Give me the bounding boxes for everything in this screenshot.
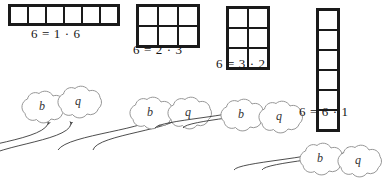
- cloud-q-label-1: q: [50, 94, 106, 109]
- cloud-q-1: q: [50, 81, 106, 121]
- array-cell: [318, 10, 338, 30]
- cloud-q-2: q: [160, 92, 216, 132]
- cropped-text-remnant-glyphs: [0, 0, 3, 3]
- array-cell: [318, 30, 338, 50]
- cloud-q-label-4: q: [330, 153, 386, 168]
- arrow-layer: [292, 58, 386, 148]
- arrow-q-1-arrow-icon: [0, 124, 71, 162]
- cloud-q-4: q: [330, 140, 386, 180]
- arrow-b-1-arrow-icon: [0, 124, 48, 162]
